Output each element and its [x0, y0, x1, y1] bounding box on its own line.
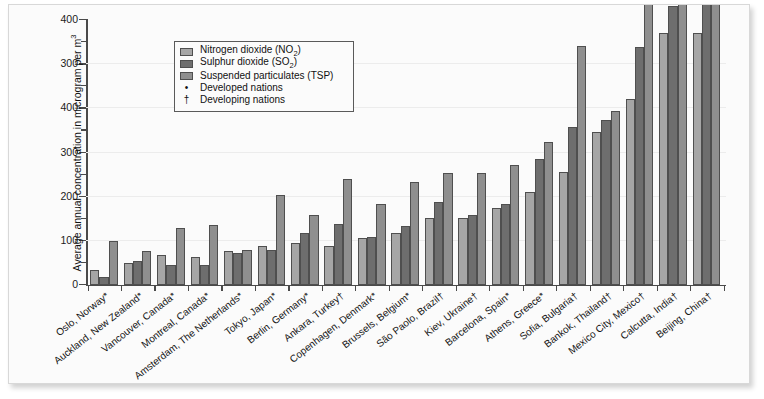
bar: [659, 33, 668, 285]
bar: [568, 127, 577, 285]
bar-group: [358, 19, 391, 285]
bar: [391, 233, 400, 285]
bar-group: [90, 19, 123, 285]
bar: [124, 263, 133, 284]
bar: [702, 4, 711, 285]
bar: [425, 218, 434, 284]
bar-group: [659, 19, 692, 285]
bar: [109, 241, 118, 284]
legend-swatch-icon: [180, 48, 193, 56]
y-axis-title-exponent: 3: [69, 34, 78, 38]
bar-group: [124, 19, 157, 285]
bar: [410, 182, 419, 285]
chart-card: 4003004003002001000 Average annual conce…: [8, 4, 750, 384]
bar: [525, 192, 534, 285]
bar: [626, 99, 635, 285]
bar: [468, 215, 477, 285]
bar-group: [592, 19, 625, 285]
bar: [309, 215, 318, 285]
bar-group: [525, 19, 558, 285]
bar: [291, 243, 300, 284]
bar: [535, 159, 544, 285]
bar: [142, 251, 151, 284]
bar: [224, 251, 233, 284]
bar-group: [458, 19, 491, 285]
bar: [267, 250, 276, 284]
bar: [678, 4, 687, 285]
bar: [99, 277, 108, 285]
bar: [644, 4, 653, 285]
bar: [611, 111, 620, 285]
bar: [401, 226, 410, 284]
bar: [635, 47, 644, 284]
legend-label: Sulphur dioxide (SO2): [200, 57, 297, 71]
legend-label: Developing nations: [200, 95, 285, 105]
legend-entry: †Developing nations: [180, 95, 346, 107]
legend-label: Suspended particulates (TSP): [200, 71, 333, 81]
bar: [601, 120, 610, 284]
bar: [477, 173, 486, 284]
bar: [191, 257, 200, 285]
bar: [343, 179, 352, 285]
x-axis-line: [86, 285, 726, 287]
bar: [592, 132, 601, 284]
plot-area: 4003004003002001000 Average annual conce…: [86, 19, 726, 286]
bar: [443, 173, 452, 284]
legend-marker-icon: •: [180, 84, 193, 92]
legend-swatch-icon: [180, 72, 193, 80]
legend-label-subscript: 2: [290, 61, 294, 70]
bar: [276, 195, 285, 284]
bar: [711, 4, 720, 285]
legend-entry: Suspended particulates (TSP): [180, 71, 346, 83]
chart-legend: Nitrogen dioxide (NO2)Sulphur dioxide (S…: [174, 41, 354, 112]
y-axis-tick-label: 0: [72, 278, 78, 290]
bar: [300, 233, 309, 285]
legend-marker-icon: †: [180, 96, 193, 104]
bar: [157, 255, 166, 284]
bar: [334, 224, 343, 285]
bar: [458, 218, 467, 284]
bar: [358, 238, 367, 284]
bar: [133, 261, 142, 285]
y-axis-title: Average annual concentration in microgra…: [69, 34, 83, 271]
bar: [559, 172, 568, 285]
legend-swatch-icon: [180, 60, 193, 68]
bar: [668, 6, 677, 284]
bar: [693, 33, 702, 285]
bar: [376, 204, 385, 285]
x-axis-tick-labels: Oslo, Norway*Auckland, New Zealand*Vanco…: [86, 288, 750, 384]
bar: [501, 204, 510, 285]
bar: [434, 202, 443, 285]
bar: [367, 237, 376, 285]
bar: [90, 270, 99, 285]
bar-group: [391, 19, 424, 285]
bar: [166, 265, 175, 285]
bar: [258, 246, 267, 284]
bar: [233, 253, 242, 285]
bar-group: [626, 19, 659, 285]
bar: [324, 246, 333, 284]
y-axis-tick-label: 400: [60, 13, 78, 25]
bar: [510, 165, 519, 284]
bar-group: [492, 19, 525, 285]
bar: [492, 208, 501, 284]
bar-group: [693, 19, 726, 285]
bar: [209, 225, 218, 285]
bar-group: [559, 19, 592, 285]
legend-entry: •Developed nations: [180, 83, 346, 95]
bar-group: [425, 19, 458, 285]
bar: [176, 228, 185, 284]
legend-entry: Sulphur dioxide (SO2): [180, 59, 346, 71]
bar: [242, 250, 251, 284]
y-axis-tick: [79, 19, 86, 20]
bar: [200, 265, 209, 285]
bar: [577, 46, 586, 285]
legend-label: Developed nations: [200, 83, 283, 93]
y-axis-tick: [79, 284, 86, 285]
bar: [544, 142, 553, 284]
